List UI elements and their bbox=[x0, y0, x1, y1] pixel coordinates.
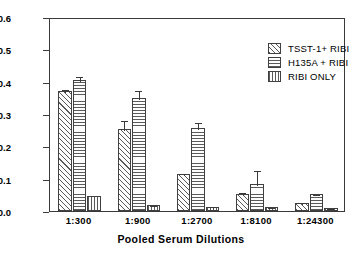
x-tick-label: 1:900 bbox=[125, 215, 151, 226]
error-bar-cap bbox=[298, 203, 305, 204]
bar bbox=[250, 184, 264, 211]
error-bar bbox=[139, 91, 140, 100]
error-bar-cap bbox=[327, 209, 334, 210]
plot-area: TSST-1+ RIBIH135A + RIBIRIBI ONLY bbox=[49, 18, 345, 212]
legend-swatch-diagonal bbox=[268, 43, 281, 54]
bar bbox=[132, 98, 146, 211]
bar-chart: Absorbance (405 nm) 0.00.10.20.30.40.50.… bbox=[0, 0, 362, 263]
bar bbox=[87, 196, 101, 211]
error-bar-cap bbox=[76, 77, 83, 78]
error-bar-cap bbox=[254, 171, 261, 172]
error-bar-cap bbox=[150, 206, 157, 207]
legend-swatch-vertical bbox=[268, 71, 281, 82]
y-tick-label: 0.1 bbox=[0, 174, 11, 185]
y-tick-label: 0.2 bbox=[0, 142, 11, 153]
bar bbox=[118, 129, 132, 211]
y-tick-label: 0.4 bbox=[0, 77, 11, 88]
error-bar-cap bbox=[180, 174, 187, 175]
error-bar bbox=[124, 121, 125, 131]
x-tick-label: 1:300 bbox=[66, 215, 92, 226]
x-tick-label: 1:2700 bbox=[181, 215, 212, 226]
y-tick-label: 0.0 bbox=[0, 207, 11, 218]
chart-legend: TSST-1+ RIBIH135A + RIBIRIBI ONLY bbox=[268, 42, 349, 84]
error-bar-cap bbox=[62, 90, 69, 91]
x-tick-label: 1:24300 bbox=[297, 215, 334, 226]
y-tick-label: 0.5 bbox=[0, 45, 11, 56]
bar bbox=[73, 80, 87, 211]
legend-label: TSST-1+ RIBI bbox=[288, 43, 349, 54]
error-bar-cap bbox=[239, 193, 246, 194]
bar bbox=[236, 194, 250, 211]
legend-item: H135A + RIBI bbox=[268, 56, 349, 69]
error-bar-cap bbox=[209, 207, 216, 208]
error-bar-cap bbox=[121, 121, 128, 122]
error-bar-cap bbox=[195, 123, 202, 124]
error-bar bbox=[257, 171, 258, 187]
legend-item: TSST-1+ RIBI bbox=[268, 42, 349, 55]
error-bar-cap bbox=[135, 91, 142, 92]
y-tick-mark bbox=[43, 212, 49, 213]
legend-label: RIBI ONLY bbox=[288, 71, 336, 82]
error-bar-cap bbox=[313, 195, 320, 196]
bar bbox=[177, 174, 191, 211]
x-tick-label: 1:8100 bbox=[240, 215, 271, 226]
error-bar-cap bbox=[268, 208, 275, 209]
legend-item: RIBI ONLY bbox=[268, 70, 349, 83]
bar bbox=[191, 128, 205, 211]
bar bbox=[58, 91, 72, 211]
legend-label: H135A + RIBI bbox=[288, 57, 348, 68]
legend-swatch-horizontal bbox=[268, 57, 281, 68]
x-axis-title: Pooled Serum Dilutions bbox=[0, 233, 362, 245]
bar bbox=[310, 194, 324, 211]
y-tick-label: 0.6 bbox=[0, 13, 11, 24]
y-tick-label: 0.3 bbox=[0, 110, 11, 121]
